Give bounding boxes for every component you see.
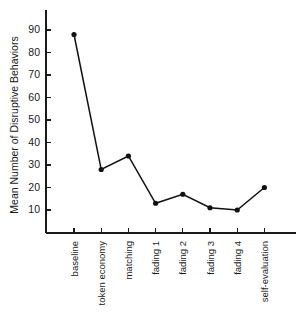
data-point	[262, 185, 267, 190]
x-axis-ticks: baselinetoken economymatchingfading 1fad…	[69, 228, 270, 305]
y-tick-label: 90	[28, 23, 40, 35]
line-chart: Mean Number of Disruptive Behaviors 1020…	[0, 0, 306, 325]
y-tick-label: 70	[28, 68, 40, 80]
x-tick-label: fading 3	[205, 241, 216, 275]
data-point	[126, 153, 131, 158]
x-tick-label: token economy	[96, 241, 107, 306]
y-axis-ticks: 102030405060708090	[28, 23, 51, 215]
data-point	[235, 207, 240, 212]
data-point	[153, 201, 158, 206]
y-axis-title: Mean Number of Disruptive Behaviors	[8, 36, 20, 213]
data-point	[99, 167, 104, 172]
series-markers	[71, 32, 267, 213]
data-point	[207, 205, 212, 210]
y-tick-label: 10	[28, 203, 40, 215]
y-tick-label: 20	[28, 181, 40, 193]
x-tick-label: baseline	[69, 241, 80, 276]
x-tick-label: matching	[123, 241, 134, 280]
x-tick-label: self-evaluation	[259, 241, 270, 302]
y-tick-label: 30	[28, 158, 40, 170]
chart-container: Mean Number of Disruptive Behaviors 1020…	[0, 0, 306, 325]
x-tick-label: fading 4	[232, 241, 243, 275]
y-tick-label: 80	[28, 46, 40, 58]
data-series	[71, 32, 267, 213]
y-tick-label: 40	[28, 136, 40, 148]
y-axis-title-text: Mean Number of Disruptive Behaviors	[8, 36, 20, 213]
data-point	[180, 192, 185, 197]
y-tick-label: 60	[28, 91, 40, 103]
series-line-path	[74, 35, 264, 211]
x-tick-label: fading 2	[177, 241, 188, 275]
y-tick-label: 50	[28, 113, 40, 125]
x-tick-label: fading 1	[150, 241, 161, 275]
data-point	[71, 32, 76, 37]
